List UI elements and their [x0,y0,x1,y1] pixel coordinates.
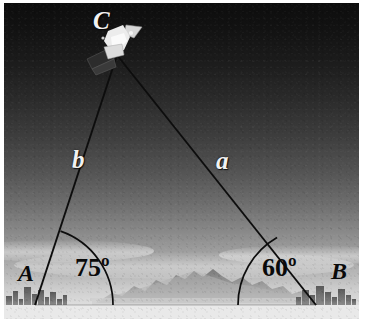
angle-label-b: 60º [262,255,297,281]
vertex-label-b: B [331,259,347,283]
side-label-b: b [72,147,85,172]
vertex-label-c: C [93,8,110,33]
satellite-layer [4,3,359,319]
vertex-label-a: A [18,261,34,285]
side-label-a: a [216,148,229,173]
trigonometry-figure: C b a A B 75º 60º [0,0,365,321]
photo-plate: C b a A B 75º 60º [4,3,359,319]
angle-label-a: 75º [75,255,110,281]
